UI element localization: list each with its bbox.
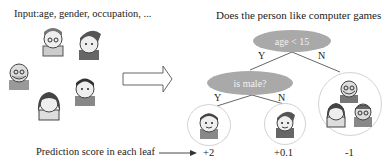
young-woman-icon [38, 92, 60, 120]
input-people [0, 0, 388, 167]
prediction-label: Prediction score in each leaf [36, 146, 155, 157]
boy-icon [75, 79, 95, 107]
leaf-2-score: +0.1 [274, 147, 293, 158]
girl-ponytail-icon [79, 31, 101, 60]
grandpa-icon [9, 64, 29, 90]
leaf-1-score: +2 [203, 147, 214, 158]
grandma-icon [43, 28, 63, 56]
leaf-3-score: -1 [345, 147, 354, 158]
